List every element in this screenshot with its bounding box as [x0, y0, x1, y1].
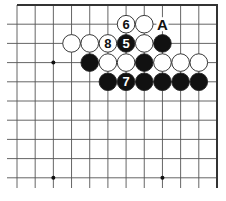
black-stone-circle — [154, 35, 172, 53]
marks: A — [156, 16, 168, 33]
white-stone — [63, 35, 81, 53]
white-stone — [99, 54, 117, 72]
move-number-label: 6 — [122, 17, 129, 32]
white-stone — [172, 54, 190, 72]
black-stone-circle — [135, 73, 153, 91]
white-stone — [81, 35, 99, 53]
black-stone-circle — [190, 73, 208, 91]
point-label-a: A — [157, 16, 168, 33]
star-point — [51, 61, 55, 65]
black-stone: 7 — [117, 73, 135, 91]
black-stone — [135, 54, 153, 72]
white-stone: 8 — [99, 35, 117, 53]
white-stone — [117, 54, 135, 72]
white-stone-circle — [117, 54, 135, 72]
board-edges — [17, 5, 218, 188]
white-stone-circle — [154, 54, 172, 72]
white-stone-circle — [63, 35, 81, 53]
move-number-label: 8 — [104, 36, 111, 51]
black-stone-circle — [172, 73, 190, 91]
white-stone — [190, 54, 208, 72]
stones: 6857 — [63, 15, 208, 90]
go-board: 6857 A — [0, 0, 226, 201]
black-stone — [154, 35, 172, 53]
black-stone — [154, 73, 172, 91]
black-stone — [99, 73, 117, 91]
white-stone-circle — [135, 35, 153, 53]
star-point — [160, 176, 164, 180]
white-stone-circle — [99, 54, 117, 72]
white-stone — [154, 54, 172, 72]
grid-lines — [7, 5, 217, 188]
black-stone-circle — [135, 54, 153, 72]
white-stone-circle — [135, 15, 153, 33]
move-number-label: 7 — [122, 74, 129, 89]
black-stone — [135, 73, 153, 91]
black-stone: 5 — [117, 35, 135, 53]
black-stone-circle — [99, 73, 117, 91]
black-stone — [190, 73, 208, 91]
white-stone — [135, 35, 153, 53]
black-stone — [172, 73, 190, 91]
star-point — [51, 176, 55, 180]
white-stone-circle — [172, 54, 190, 72]
black-stone-circle — [154, 73, 172, 91]
white-stone-circle — [190, 54, 208, 72]
white-stone-circle — [81, 35, 99, 53]
black-stone — [81, 54, 99, 72]
move-number-label: 5 — [122, 36, 129, 51]
white-stone: 6 — [117, 15, 135, 33]
white-stone — [135, 15, 153, 33]
black-stone-circle — [81, 54, 99, 72]
